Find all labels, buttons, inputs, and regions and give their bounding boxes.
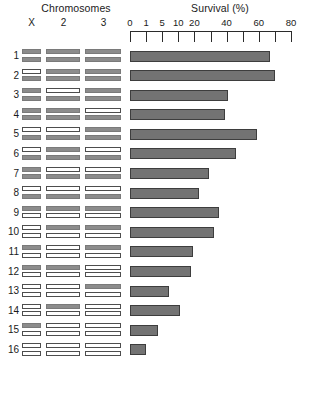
chromosome-pair-x <box>22 245 41 260</box>
survival-bar <box>130 344 146 355</box>
chromosome-pair-x <box>22 167 41 182</box>
row-label: 8 <box>0 187 19 198</box>
chromosome-filled-icon <box>46 206 80 211</box>
chromosome-filled-icon <box>46 147 80 152</box>
chromosome-filled-icon <box>85 225 121 230</box>
axis-tick-label: 20 <box>185 17 203 28</box>
chromosome-open-icon <box>85 351 121 356</box>
axis-tick-mark <box>275 31 276 42</box>
genotype-row: 8 <box>0 184 316 204</box>
survival-axis-title: Survival (%) <box>160 2 280 14</box>
chromosome-open-icon <box>85 186 121 191</box>
chromosome-filled-icon <box>85 57 121 62</box>
chromosome-open-icon <box>46 167 80 172</box>
chromosome-filled-icon <box>22 323 41 328</box>
chromosome-pair-x <box>22 304 41 319</box>
genotype-row: 13 <box>0 282 316 302</box>
row-label: 16 <box>0 344 19 355</box>
survival-bar <box>130 305 180 316</box>
chromosome-filled-icon <box>85 49 121 54</box>
chromosome-open-icon <box>46 331 80 336</box>
chromosome-open-icon <box>85 343 121 348</box>
axis-tick-mark <box>146 31 147 42</box>
chromosome-pair-x <box>22 69 41 84</box>
genotype-row: 15 <box>0 321 316 341</box>
column-header-x: X <box>22 17 41 28</box>
survival-bar <box>130 266 191 277</box>
chromosome-pair-2 <box>46 225 80 240</box>
row-label: 15 <box>0 324 19 335</box>
chromosome-open-icon <box>22 343 41 348</box>
chromosome-filled-icon <box>46 49 80 54</box>
chromosome-pair-3 <box>85 108 121 123</box>
chromosome-open-icon <box>22 331 41 336</box>
chromosome-pair-3 <box>85 323 121 338</box>
row-label: 14 <box>0 305 19 316</box>
genotype-row: 7 <box>0 165 316 185</box>
chromosome-pair-2 <box>46 245 80 260</box>
survival-bar <box>130 325 158 336</box>
chromosome-open-icon <box>22 284 41 289</box>
chromosome-pair-2 <box>46 206 80 221</box>
row-label: 4 <box>0 109 19 120</box>
chromosome-open-icon <box>46 323 80 328</box>
chromosome-open-icon <box>46 272 80 277</box>
axis-tick-mark <box>194 31 195 42</box>
axis-tick-label: 0 <box>121 17 139 28</box>
survival-bar <box>130 246 193 257</box>
chromosome-pair-2 <box>46 108 80 123</box>
genotype-row: 9 <box>0 204 316 224</box>
axis-tick-label: 10 <box>169 17 187 28</box>
survival-bar <box>130 148 236 159</box>
row-label: 11 <box>0 246 19 257</box>
genotype-row: 4 <box>0 106 316 126</box>
chromosome-open-icon <box>22 311 41 316</box>
chromosome-filled-icon <box>85 88 121 93</box>
axis-tick-label: 5 <box>153 17 171 28</box>
chromosomes-title: Chromosomes <box>24 2 128 14</box>
genotype-row: 12 <box>0 263 316 283</box>
axis-tick-mark <box>227 31 228 42</box>
chromosome-pair-3 <box>85 206 121 221</box>
genotype-row: 1 <box>0 47 316 67</box>
chromosome-filled-icon <box>22 167 41 172</box>
chromosome-open-icon <box>22 351 41 356</box>
chromosome-filled-icon <box>85 96 121 101</box>
chromosome-open-icon <box>85 323 121 328</box>
chromosome-pair-x <box>22 323 41 338</box>
chromosome-filled-icon <box>22 135 41 140</box>
axis-baseline <box>130 31 291 32</box>
chromosome-open-icon <box>22 233 41 238</box>
chromosome-pair-x <box>22 284 41 299</box>
chromosome-pair-x <box>22 49 41 64</box>
chromosome-open-icon <box>22 253 41 258</box>
chromosome-filled-icon <box>85 284 121 289</box>
chromosome-filled-icon <box>85 115 121 120</box>
chromosome-filled-icon <box>46 57 80 62</box>
chromosome-open-icon <box>85 304 121 309</box>
chromosome-open-icon <box>85 311 121 316</box>
row-label: 2 <box>0 70 19 81</box>
genotype-row: 5 <box>0 125 316 145</box>
chromosome-filled-icon <box>22 49 41 54</box>
chromosome-filled-icon <box>22 88 41 93</box>
chromosome-pair-x <box>22 265 41 280</box>
chromosome-pair-x <box>22 206 41 221</box>
chromosome-pair-2 <box>46 167 80 182</box>
chromosome-open-icon <box>22 69 41 74</box>
chromosome-pair-2 <box>46 284 80 299</box>
genotype-row: 3 <box>0 86 316 106</box>
chromosome-open-icon <box>85 272 121 277</box>
chromosome-filled-icon <box>85 69 121 74</box>
chromosome-open-icon <box>22 186 41 191</box>
chromosome-filled-icon <box>85 174 121 179</box>
axis-tick-label: 60 <box>250 17 268 28</box>
survival-bar <box>130 207 219 218</box>
axis-tick-mark <box>211 31 212 42</box>
chromosome-pair-2 <box>46 147 80 162</box>
chromosome-open-icon <box>46 186 80 191</box>
chromosome-pair-3 <box>85 127 121 142</box>
chromosome-filled-icon <box>22 265 41 270</box>
chromosome-open-icon <box>46 88 80 93</box>
chromosome-filled-icon <box>46 76 80 81</box>
